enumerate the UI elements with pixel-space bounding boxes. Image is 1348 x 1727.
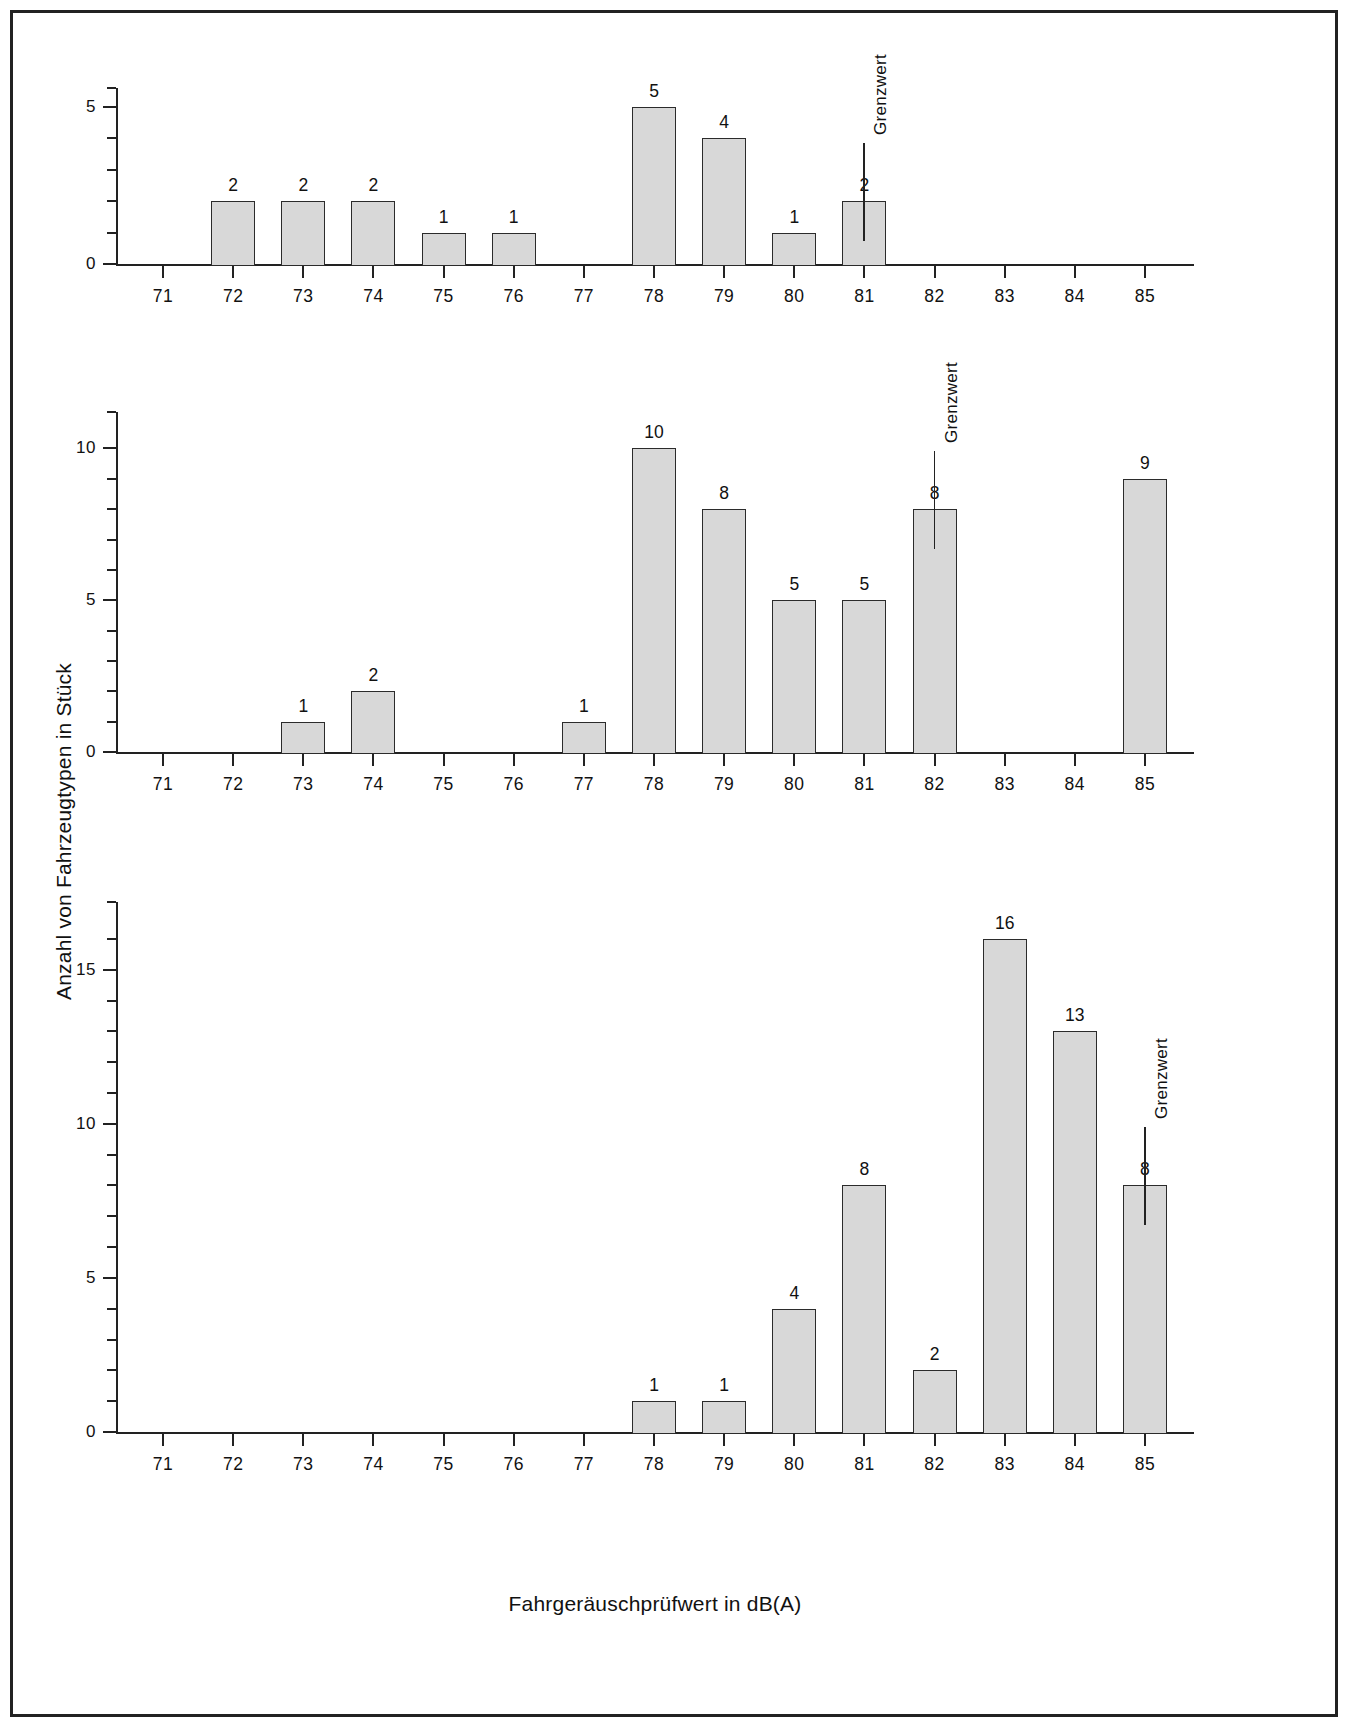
bar[interactable] <box>842 600 886 754</box>
bar-value-label: 5 <box>649 81 659 102</box>
y-axis-line <box>116 88 118 266</box>
x-axis-tick <box>372 754 374 766</box>
bar[interactable] <box>702 1401 746 1434</box>
x-axis-tick <box>372 1434 374 1446</box>
x-axis-tick-label: 72 <box>201 774 265 795</box>
y-axis-tick-major <box>103 1431 116 1433</box>
bar-value-label: 1 <box>719 1375 729 1396</box>
x-axis-tick <box>232 266 234 278</box>
x-axis-tick <box>513 266 515 278</box>
x-axis-tick-label: 82 <box>903 774 967 795</box>
x-axis-tick <box>934 754 936 766</box>
bar[interactable] <box>211 201 255 266</box>
x-axis-tick <box>162 754 164 766</box>
y-axis-line <box>116 412 118 754</box>
bar[interactable] <box>772 1309 816 1434</box>
bar[interactable] <box>632 1401 676 1434</box>
x-axis-tick <box>513 754 515 766</box>
bar-value-label: 2 <box>298 175 308 196</box>
y-axis-tick-minor <box>107 1369 116 1371</box>
bar[interactable] <box>772 600 816 754</box>
x-axis-tick-label: 80 <box>762 774 826 795</box>
x-axis-tick <box>653 754 655 766</box>
x-axis-tick <box>1144 754 1146 766</box>
bar-value-label: 2 <box>369 665 379 686</box>
x-axis-tick <box>1074 1434 1076 1446</box>
x-axis-tick-label: 82 <box>903 286 967 307</box>
bar[interactable] <box>772 233 816 266</box>
x-axis-tick-label: 78 <box>622 774 686 795</box>
bar[interactable] <box>281 722 325 754</box>
x-axis-tick <box>1144 266 1146 278</box>
bar[interactable] <box>632 448 676 754</box>
chart-page: 0571722732742751761777857948018128283848… <box>0 0 1348 1727</box>
x-axis-tick <box>653 266 655 278</box>
x-axis-tick-label: 71 <box>131 286 195 307</box>
bar[interactable] <box>281 201 325 266</box>
bar[interactable] <box>1123 479 1167 754</box>
y-axis-tick-minor <box>107 508 116 510</box>
y-axis-tick-minor <box>107 660 116 662</box>
x-axis-tick-label: 75 <box>412 286 476 307</box>
y-axis-tick-label: 5 <box>48 97 96 117</box>
y-axis-tick-label: 5 <box>48 1268 96 1288</box>
x-axis-tick-label: 77 <box>552 286 616 307</box>
x-axis-tick <box>583 754 585 766</box>
bar[interactable] <box>351 201 395 266</box>
bar[interactable] <box>351 691 395 754</box>
x-axis-tick <box>162 1434 164 1446</box>
x-axis-tick-label: 84 <box>1043 1454 1107 1475</box>
bar[interactable] <box>702 138 746 266</box>
page-border-top <box>10 10 1338 13</box>
x-axis-tick-label: 73 <box>271 286 335 307</box>
x-axis-tick-label: 81 <box>832 774 896 795</box>
y-axis-tick-minor <box>107 721 116 723</box>
x-axis-tick-label: 81 <box>832 286 896 307</box>
y-axis-tick-major <box>103 1123 116 1125</box>
y-axis-tick-minor <box>107 1092 116 1094</box>
bar[interactable] <box>1053 1031 1097 1434</box>
y-axis-tick-major <box>103 751 116 753</box>
y-axis-tick-label: 5 <box>48 590 96 610</box>
x-axis-tick <box>583 266 585 278</box>
x-axis-tick-label: 76 <box>482 1454 546 1475</box>
x-axis-tick <box>863 1434 865 1446</box>
y-axis-tick-minor <box>107 1246 116 1248</box>
bar[interactable] <box>562 722 606 754</box>
x-axis-tick-label: 74 <box>341 1454 405 1475</box>
y-axis-tick-minor <box>107 1184 116 1186</box>
bar[interactable] <box>983 939 1027 1434</box>
bar[interactable] <box>632 107 676 266</box>
x-axis-tick <box>513 1434 515 1446</box>
y-axis-title: Anzahl von Fahrzeugtypen in Stück <box>52 663 76 1000</box>
x-axis-tick-label: 79 <box>692 774 756 795</box>
y-axis-tick-minor <box>107 1308 116 1310</box>
bar[interactable] <box>702 509 746 754</box>
x-axis-tick-label: 82 <box>903 1454 967 1475</box>
bar-value-label: 2 <box>930 1344 940 1365</box>
x-axis-tick <box>1144 1434 1146 1446</box>
x-axis-tick <box>793 266 795 278</box>
page-border-right <box>1335 10 1338 1717</box>
bar[interactable] <box>842 1185 886 1434</box>
y-axis-tick-minor <box>107 1339 116 1341</box>
x-axis-tick-label: 80 <box>762 286 826 307</box>
bar-value-label: 1 <box>649 1375 659 1396</box>
y-axis-tick-major <box>103 106 116 108</box>
y-axis-tick-minor <box>107 690 116 692</box>
bar[interactable] <box>492 233 536 266</box>
x-axis-tick-label: 85 <box>1113 1454 1177 1475</box>
bar[interactable] <box>913 1370 957 1434</box>
x-axis-tick <box>934 266 936 278</box>
y-axis-tick-major <box>103 263 116 265</box>
x-axis-tick <box>302 754 304 766</box>
bar-value-label: 2 <box>228 175 238 196</box>
y-axis-tick-minor <box>107 1061 116 1063</box>
bar-value-label: 8 <box>860 1159 870 1180</box>
bar[interactable] <box>422 233 466 266</box>
y-axis-tick-label: 10 <box>48 1114 96 1134</box>
bar-value-label: 1 <box>579 696 589 717</box>
bar-value-label: 5 <box>860 574 870 595</box>
x-axis-tick <box>1004 1434 1006 1446</box>
limit-label: Grenzwert <box>1152 1038 1172 1119</box>
